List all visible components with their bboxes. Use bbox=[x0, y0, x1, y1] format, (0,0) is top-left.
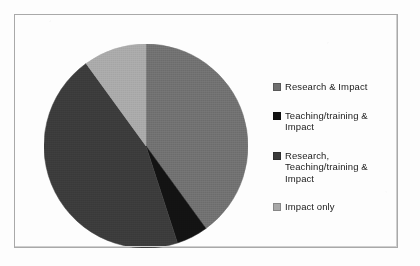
chart-legend: Research & Impact Teaching/training & Im… bbox=[273, 81, 405, 213]
legend-swatch-icon bbox=[273, 83, 281, 91]
legend-item-impact-only[interactable]: Impact only bbox=[273, 201, 405, 213]
legend-swatch-icon bbox=[273, 112, 281, 120]
legend-swatch-icon bbox=[273, 152, 281, 160]
legend-item-label: Research & Impact bbox=[285, 81, 367, 93]
legend-item-research-teaching-training-and-impact[interactable]: Research, Teaching/training & Impact bbox=[273, 150, 405, 185]
legend-item-label: Teaching/training & Impact bbox=[285, 110, 368, 133]
legend-item-label: Research, Teaching/training & Impact bbox=[285, 150, 368, 185]
legend-item-research-and-impact[interactable]: Research & Impact bbox=[273, 81, 405, 93]
chart-frame: Research & Impact Teaching/training & Im… bbox=[14, 14, 398, 248]
pie-chart bbox=[44, 44, 248, 248]
pie-chart-svg bbox=[44, 44, 248, 248]
legend-swatch-icon bbox=[273, 203, 281, 211]
legend-item-teaching-training-and-impact[interactable]: Teaching/training & Impact bbox=[273, 110, 405, 133]
legend-item-label: Impact only bbox=[285, 201, 335, 213]
